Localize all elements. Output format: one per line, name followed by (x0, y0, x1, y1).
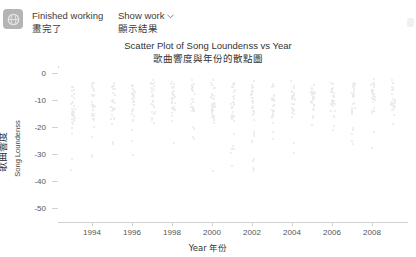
scatter-point (174, 109, 176, 111)
x-tick (372, 222, 373, 226)
scatter-point (191, 79, 193, 81)
scatter-point (93, 118, 95, 120)
scatter-point (91, 85, 93, 87)
finished-working-status: Finished working 畫完了 (32, 10, 103, 35)
scatter-point (353, 95, 355, 97)
scatter-point (92, 95, 94, 97)
scatter-point (70, 169, 72, 171)
x-tick-label: 1994 (83, 228, 101, 237)
scatter-point (353, 85, 355, 87)
scatter-point (93, 126, 95, 128)
scatter-point (332, 129, 334, 131)
scatter-point (371, 147, 373, 149)
y-axis-title-en: Song Loundenss (13, 107, 22, 191)
chevron-down-icon[interactable] (167, 10, 174, 22)
show-work-label-en[interactable]: Show work (118, 10, 174, 22)
scatter-point (213, 117, 215, 119)
scatter-point (252, 86, 254, 88)
scatter-point (172, 97, 174, 99)
scatter-point (71, 127, 73, 129)
scatter-point (71, 133, 73, 135)
scatter-point (391, 109, 393, 111)
x-tick (172, 222, 173, 226)
scatter-point (131, 93, 133, 95)
scatter-point (313, 84, 315, 86)
scatter-point (131, 129, 133, 131)
scatter-point (392, 82, 394, 84)
scatter-point (232, 96, 234, 98)
scatter-point (111, 110, 113, 112)
x-tick (252, 222, 253, 226)
scatter-point (293, 113, 295, 115)
scatter-point (351, 140, 353, 142)
scatter-point (373, 78, 375, 80)
scatter-point (311, 87, 313, 89)
scatter-point (291, 116, 293, 118)
scatter-point (152, 101, 154, 103)
y-tick (52, 208, 58, 209)
x-tick-label: 2008 (363, 228, 381, 237)
scatter-point (392, 89, 394, 91)
x-tick-label: 2000 (203, 228, 221, 237)
scatter-point (91, 156, 93, 158)
scatter-point (272, 115, 274, 117)
scatter-point (352, 103, 354, 105)
scatter-point (373, 86, 375, 88)
globe-icon (3, 9, 23, 29)
scatter-point (92, 109, 94, 111)
scatter-point (251, 140, 253, 142)
scatter-point (174, 102, 176, 104)
scatter-point (232, 111, 234, 113)
x-tick (332, 222, 333, 226)
scatter-point (111, 114, 113, 116)
scatter-point (153, 89, 155, 91)
scatter-point (133, 115, 135, 117)
scatter-point (93, 115, 95, 117)
scatter-point (252, 105, 254, 107)
scatter-point (332, 83, 334, 85)
scatter-point (211, 84, 213, 86)
finished-working-label-en: Finished working (32, 10, 103, 22)
scatter-point (353, 88, 355, 90)
y-tick-label: -30 (34, 150, 46, 159)
scatter-point (312, 117, 314, 119)
scatter-point (193, 83, 195, 85)
scatter-point (213, 98, 215, 100)
y-tick-label: -10 (34, 96, 46, 105)
scatter-point (113, 117, 115, 119)
scatter-point (392, 87, 394, 89)
scatter-point (293, 87, 295, 89)
scatter-point (333, 92, 335, 94)
chart-title-en: Scatter Plot of Song Loundenss vs Year (0, 40, 416, 52)
y-tick (52, 73, 58, 74)
show-work-toggle[interactable]: Show work 顯示結果 (118, 10, 174, 35)
scatter-point (313, 104, 315, 106)
scatter-point (193, 128, 195, 130)
scatter-point (171, 112, 173, 114)
scatter-point (91, 136, 93, 138)
scatter-point (273, 95, 275, 97)
scatter-point (193, 138, 195, 140)
scatter-point (133, 90, 135, 92)
scatter-point (74, 108, 76, 110)
scatter-point (393, 114, 395, 116)
show-work-text: Show work (118, 10, 164, 22)
scatter-point (171, 120, 173, 122)
scatter-point (373, 110, 375, 112)
scatter-point (191, 110, 193, 112)
scatter-point (132, 85, 134, 87)
scatter-point (333, 100, 335, 102)
scatter-point (112, 88, 114, 90)
show-work-label-zh: 顯示結果 (118, 22, 174, 35)
scatter-point (114, 94, 116, 96)
scatter-point (114, 88, 116, 90)
scatter-point (173, 83, 175, 85)
scatter-point (233, 102, 235, 104)
scatter-point (73, 120, 75, 122)
scatter-point (354, 107, 356, 109)
scatter-point (232, 83, 234, 85)
scatter-point (153, 106, 155, 108)
chart-title: Scatter Plot of Song Loundenss vs Year 歌… (0, 40, 416, 65)
scatter-point (152, 79, 154, 81)
scatter-point (192, 101, 194, 103)
